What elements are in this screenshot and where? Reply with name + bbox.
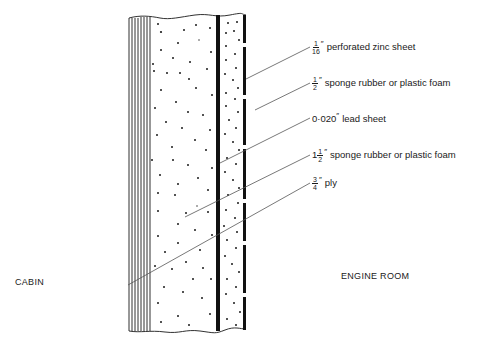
fraction: 12 — [312, 76, 318, 91]
leader-sponge-half — [255, 83, 310, 110]
label-engine-room: ENGINE ROOM — [341, 271, 409, 281]
bulkhead-cross-section — [0, 0, 498, 346]
leader-sponge-one-half — [185, 155, 310, 217]
leader-lead — [220, 118, 310, 163]
leader-zinc — [246, 47, 310, 79]
label-ply: 34″ply — [312, 174, 337, 191]
label-sponge-one-half: 112″sponge rubber or plastic foam — [312, 146, 456, 163]
label-zinc-sheet: 116″perforated zinc sheet — [312, 38, 415, 55]
label-cabin: CABIN — [15, 277, 44, 287]
label-sponge-half: 12″sponge rubber or plastic foam — [312, 74, 450, 91]
fraction: 34 — [312, 176, 318, 191]
foam-small-layer — [223, 21, 241, 326]
fraction: 12 — [317, 148, 323, 163]
fraction: 116 — [312, 40, 320, 55]
ply-layer — [129, 17, 150, 331]
lead-sheet-layer — [216, 15, 220, 331]
zinc-sheet-layer — [243, 15, 246, 330]
foam-large-layer — [151, 23, 213, 326]
label-lead-sheet: 0·020″lead sheet — [312, 110, 386, 125]
